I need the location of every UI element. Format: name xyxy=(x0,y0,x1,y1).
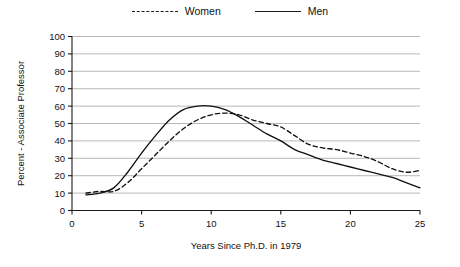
y-tick-label: 30 xyxy=(54,153,65,164)
plot-area: 01020304050607080901000510152025 xyxy=(0,0,460,267)
x-tick-label: 0 xyxy=(69,218,74,229)
x-tick-label: 25 xyxy=(415,218,426,229)
y-tick-label: 100 xyxy=(49,31,65,42)
y-tick-label: 70 xyxy=(54,83,65,94)
y-tick-label: 20 xyxy=(54,170,65,181)
axis-tick-labels: 01020304050607080901000510152025 xyxy=(49,31,425,229)
y-tick-label: 80 xyxy=(54,66,65,77)
axis-ticks xyxy=(68,37,420,215)
x-tick-label: 15 xyxy=(276,218,287,229)
y-tick-label: 50 xyxy=(54,118,65,129)
chart-figure: Women Men Percent - Associate Professor … xyxy=(0,0,460,267)
gridlines xyxy=(72,37,420,194)
x-tick-label: 20 xyxy=(345,218,356,229)
y-tick-label: 10 xyxy=(54,188,65,199)
x-tick-label: 5 xyxy=(139,218,144,229)
y-tick-label: 60 xyxy=(54,101,65,112)
data-series xyxy=(86,106,420,195)
y-tick-label: 40 xyxy=(54,135,65,146)
x-tick-label: 10 xyxy=(206,218,217,229)
y-tick-label: 0 xyxy=(60,205,65,216)
series-line-men xyxy=(86,106,420,195)
y-tick-label: 90 xyxy=(54,48,65,59)
